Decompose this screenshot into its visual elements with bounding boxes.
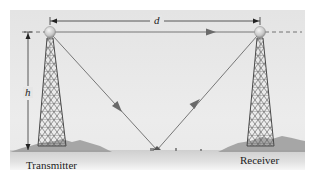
direct-ray (55, 29, 255, 36)
receiver-label: Receiver (240, 154, 279, 166)
distance-label: d (152, 15, 162, 26)
receiver-tower (247, 38, 274, 146)
height-label: h (23, 87, 33, 98)
transmitter-label: Transmitter (26, 159, 77, 171)
transmitter-tower (38, 38, 66, 146)
transmitter-antenna-sphere (45, 27, 56, 38)
reflected-ray-arrow-up (190, 99, 201, 109)
reflected-ray (53, 36, 257, 150)
receiver-antenna-sphere (255, 27, 266, 38)
diagram-canvas (0, 0, 315, 178)
